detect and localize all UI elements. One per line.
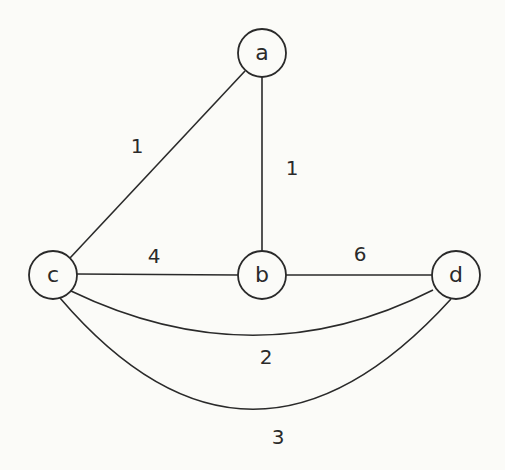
edge-weight-label: 1	[286, 156, 299, 180]
graph-svg: 114623 abcd	[0, 0, 505, 470]
edge-weight-label: 2	[260, 345, 273, 369]
nodes-layer: abcd	[29, 29, 480, 299]
edge-weight-label: 3	[272, 425, 285, 449]
edge-weight-label: 6	[354, 242, 367, 266]
graph-diagram: 114623 abcd	[0, 0, 505, 470]
node-label: d	[449, 262, 463, 287]
node-label: c	[47, 262, 59, 287]
node-a: a	[238, 29, 286, 77]
edge-c-d	[60, 298, 451, 409]
edge-weight-label: 4	[148, 244, 161, 268]
node-label: b	[255, 262, 269, 287]
edge-weight-label: 1	[131, 134, 144, 158]
node-c: c	[29, 251, 77, 299]
edges-layer	[60, 71, 451, 409]
node-label: a	[255, 40, 268, 65]
edge-a-c	[70, 71, 245, 258]
node-d: d	[432, 251, 480, 299]
node-b: b	[238, 251, 286, 299]
edge-c-b	[77, 274, 238, 275]
